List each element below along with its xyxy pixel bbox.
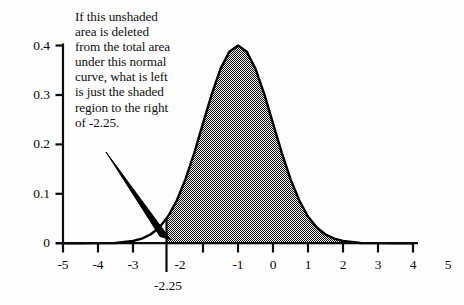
normal-distribution-figure: If this unshaded area is deleted from th… — [0, 0, 464, 305]
x-tick-label-minus1: -1 — [232, 258, 243, 272]
y-tick-label-0-2: 0.2 — [12, 138, 50, 152]
x-tick-label-2: 2 — [340, 258, 347, 272]
y-axis-ticks — [56, 46, 64, 244]
callout-leader-line — [106, 152, 171, 240]
x-axis-ticks — [63, 243, 413, 252]
x-tick-label-minus5: -5 — [57, 258, 68, 272]
y-tick-label-0-3: 0.3 — [12, 88, 50, 102]
callout-annotation: If this unshaded area is deleted from th… — [75, 9, 199, 130]
x-tick-label-minus3: -3 — [127, 258, 138, 272]
y-tick-label-0-4: 0.4 — [12, 39, 50, 53]
x-tick-label-5: 5 — [445, 258, 452, 272]
x-tick-label-3: 3 — [375, 258, 382, 272]
x-tick-label-minus2: -2 — [174, 258, 185, 272]
y-tick-label-0-1: 0.1 — [12, 187, 50, 201]
x-tick-label-0: 0 — [270, 258, 277, 272]
y-tick-label-0: 0 — [12, 236, 50, 250]
x-tick-label-minus4: -4 — [92, 258, 103, 272]
marker-label-minus225: -2.25 — [154, 279, 182, 293]
x-tick-label-1: 1 — [305, 258, 312, 272]
x-tick-label-4: 4 — [410, 258, 417, 272]
